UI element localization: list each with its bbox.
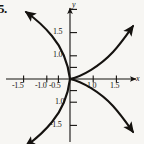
- x-tick-label--0.5: -0.5: [49, 81, 60, 90]
- curve-upper-right: [70, 26, 133, 79]
- y-axis-ticks: [70, 9, 77, 125]
- curve-lower-left: [26, 79, 70, 144]
- y-tick-label--1.0: 1.0: [55, 97, 64, 106]
- x-axis-label: x: [136, 74, 140, 83]
- curve-upper-left: [26, 12, 70, 79]
- y-tick-label--1.5: -1.5: [50, 120, 61, 129]
- x-tick-label-1.0: 1.0: [87, 81, 96, 90]
- x-tick-label-1.5: 1.5: [110, 81, 119, 90]
- y-tick-label-1.5: 1.5: [53, 27, 62, 36]
- curve-lower-right: [70, 79, 133, 132]
- y-axis-label: y: [72, 0, 76, 9]
- coordinate-plot: [0, 0, 144, 144]
- x-tick-label--1.0: -1.0: [35, 81, 46, 90]
- y-tick-label-1.0: 1.0: [53, 50, 62, 59]
- axis-lines: [6, 8, 136, 142]
- x-tick-label--1.5: -1.5: [12, 81, 23, 90]
- graph-figure: 5.: [0, 0, 144, 144]
